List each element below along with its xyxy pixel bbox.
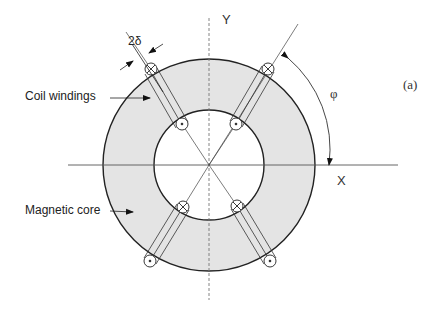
x-axis-label: X	[337, 173, 346, 188]
coil-windings-label: Coil windings	[25, 89, 96, 103]
y-axis-label: Y	[222, 12, 231, 27]
panel-label: (a)	[403, 77, 417, 92]
gap-label: 2δ	[128, 34, 142, 48]
angle-label: φ	[330, 86, 338, 101]
magnetic-core-diagram: 2δ φ Y X (a) Coil windings Magnetic core	[0, 0, 440, 309]
magnetic-core-label: Magnetic core	[25, 203, 101, 217]
